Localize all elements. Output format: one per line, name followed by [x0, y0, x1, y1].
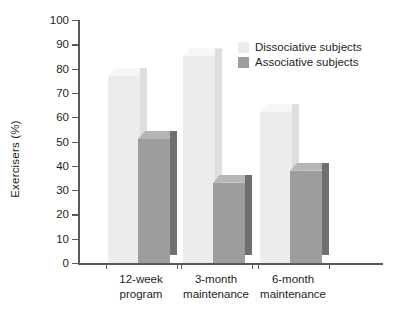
- legend-label: Associative subjects: [255, 56, 359, 68]
- bar-front-face: [213, 183, 245, 263]
- y-axis-tick-label: 0: [63, 257, 69, 269]
- y-axis-tick-label: 70: [56, 87, 69, 99]
- legend-label: Dissociative subjects: [255, 41, 362, 53]
- bar-top-face: [108, 68, 140, 76]
- bar-top-face: [260, 104, 292, 112]
- y-axis-title: Exercisers (%): [0, 0, 30, 318]
- bar-front-face: [183, 56, 215, 263]
- legend-color-swatch: [238, 57, 249, 68]
- x-axis-tick-mark: [106, 263, 107, 269]
- y-axis-tick-mark: [72, 117, 78, 118]
- x-axis-tick-mark: [258, 263, 259, 269]
- category-label-line: 6-month: [260, 272, 326, 287]
- bar-associative: [290, 171, 322, 263]
- category-label-line: maintenance: [183, 287, 249, 302]
- y-axis-tick-mark: [72, 214, 78, 215]
- y-axis-tick-mark: [72, 166, 78, 167]
- y-axis-tick-label: 80: [56, 63, 69, 75]
- bar-front-face: [108, 76, 140, 263]
- x-axis-category-label: 12-weekprogram: [119, 272, 162, 302]
- chart-legend: Dissociative subjectsAssociative subject…: [234, 38, 367, 72]
- y-axis-tick-label: 30: [56, 184, 69, 196]
- y-axis-tick-mark: [72, 142, 78, 143]
- bar-side-face: [322, 163, 329, 255]
- bar-associative: [213, 183, 245, 263]
- y-axis-tick-label: 20: [56, 208, 69, 220]
- x-axis-tick-mark: [329, 263, 330, 269]
- y-axis-tick-label: 40: [56, 160, 69, 172]
- x-axis-tick-mark: [181, 263, 182, 269]
- y-axis-tick-mark: [72, 239, 78, 240]
- x-axis-tick-mark: [177, 263, 178, 269]
- category-label-line: 12-week: [119, 272, 162, 287]
- legend-item: Dissociative subjects: [238, 41, 362, 53]
- bar-front-face: [138, 139, 170, 263]
- bar-associative: [138, 139, 170, 263]
- x-axis-tick-mark: [252, 263, 253, 269]
- y-axis-tick-mark: [72, 93, 78, 94]
- x-axis-category-label: 3-monthmaintenance: [183, 272, 249, 302]
- y-axis-tick-label: 50: [56, 136, 69, 148]
- y-axis-tick-label: 60: [56, 111, 69, 123]
- bar-chart: Exercisers (%) 0102030405060708090100 12…: [0, 0, 400, 318]
- y-axis-tick-mark: [72, 190, 78, 191]
- y-axis-tick-label: 10: [56, 233, 69, 245]
- y-axis-line: [78, 20, 80, 263]
- category-label-line: program: [119, 287, 162, 302]
- legend-color-swatch: [238, 42, 249, 53]
- bar-side-face: [170, 131, 177, 255]
- category-label-line: maintenance: [260, 287, 326, 302]
- bar-top-face: [183, 48, 215, 56]
- bar-dissociative: [183, 56, 215, 263]
- y-axis-tick-mark: [72, 20, 78, 21]
- y-axis-tick-mark: [72, 69, 78, 70]
- bar-dissociative: [108, 76, 140, 263]
- x-axis-line: [78, 263, 383, 265]
- bar-dissociative: [260, 112, 292, 263]
- bar-side-face: [245, 175, 252, 255]
- y-axis-tick-mark: [72, 44, 78, 45]
- legend-item: Associative subjects: [238, 56, 362, 68]
- y-axis-tick-label: 90: [56, 38, 69, 50]
- y-axis-tick-label: 100: [50, 14, 69, 26]
- bar-front-face: [260, 112, 292, 263]
- bar-front-face: [290, 171, 322, 263]
- category-label-line: 3-month: [183, 272, 249, 287]
- y-axis-tick-mark: [72, 263, 78, 264]
- x-axis-category-label: 6-monthmaintenance: [260, 272, 326, 302]
